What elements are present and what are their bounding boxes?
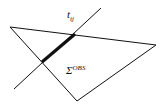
intersection-segment [42, 34, 75, 62]
region-label-superscript: OBS [73, 64, 86, 72]
region-label: ΣOBS [65, 64, 86, 76]
line-label-subscript: ij [70, 15, 74, 23]
diagram-canvas: tij ΣOBS [0, 0, 167, 107]
line-label: tij [67, 8, 74, 23]
